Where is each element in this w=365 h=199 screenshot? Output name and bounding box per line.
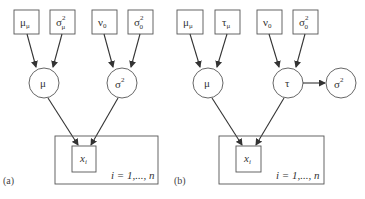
node-mu-a: μ <box>29 68 59 98</box>
edge-tau-x-b <box>256 98 284 145</box>
edge-mumu-mu-a <box>27 34 36 67</box>
edge-mu-x-a <box>48 98 78 145</box>
bayesian-network-diagram: μμ σ2μ ν0 σ20 μ σ2 <box>0 0 365 199</box>
node-tau-mu-b: τμ <box>215 10 240 34</box>
node-x-i-a: xi <box>72 146 96 172</box>
panel-a: μμ σ2μ ν0 σ20 μ σ2 <box>3 10 158 187</box>
node-nu-0-b: ν0 <box>257 10 282 34</box>
node-sigma-mu-sq-a: σ2μ <box>50 10 75 34</box>
node-nu-0-a: ν0 <box>92 10 117 34</box>
node-sigma-sq-a: σ2 <box>107 68 137 98</box>
svg-text:μ: μ <box>204 77 210 89</box>
edge-nu0-tau-b <box>269 34 279 67</box>
node-x-i-b: xi <box>236 146 261 172</box>
panel-label-a: (a) <box>3 175 14 187</box>
plate-label-a: i = 1,..., n <box>111 169 155 181</box>
panel-label-b: (b) <box>174 175 186 187</box>
edge-sigma0-sigma-a <box>131 34 140 67</box>
node-sigma-0-sq-b: σ20 <box>293 10 318 34</box>
edge-sigma0-tau-b <box>296 34 305 67</box>
node-mu-mu-b: μμ <box>177 10 203 34</box>
svg-text:τ: τ <box>285 77 290 89</box>
edge-mu-x-b <box>212 98 242 145</box>
panel-b: μμ τμ ν0 σ20 μ τ σ2 <box>174 10 356 187</box>
node-mu-b: μ <box>193 68 223 98</box>
node-tau-b: τ <box>273 68 303 98</box>
node-mu-mu-a: μμ <box>14 10 39 34</box>
edge-sigmamu-mu-a <box>53 34 62 67</box>
svg-text:μ: μ <box>40 77 46 89</box>
node-sigma-0-sq-a: σ20 <box>128 10 153 34</box>
edge-sigma-x-a <box>91 98 118 145</box>
edge-nu0-sigma-a <box>104 34 113 67</box>
edge-taumu-mu-b <box>217 34 227 67</box>
edge-mumu-mu-b <box>190 34 200 67</box>
plate-label-b: i = 1,..., n <box>276 169 320 181</box>
node-sigma-sq-b: σ2 <box>326 68 356 98</box>
